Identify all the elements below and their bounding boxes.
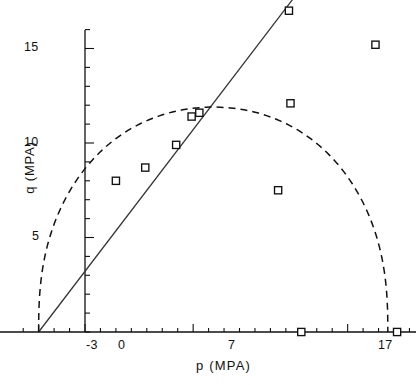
data-point-markers — [112, 7, 400, 336]
y-tick-label-15: 15 — [24, 40, 39, 54]
y-axis-label: q (MPA) — [22, 123, 37, 213]
data-point-marker — [287, 100, 294, 107]
yield-locus-dashed-curve — [39, 107, 388, 332]
data-point-marker — [298, 328, 305, 335]
data-point-marker — [275, 187, 282, 194]
data-point-marker — [196, 109, 203, 116]
x-axis-ticks — [23, 324, 409, 332]
data-point-marker — [173, 141, 180, 148]
data-point-marker — [142, 164, 149, 171]
data-point-marker — [393, 328, 400, 335]
y-tick-label-5: 5 — [32, 229, 39, 243]
x-axis-label: p (MPA) — [196, 358, 251, 373]
data-point-marker — [188, 113, 195, 120]
x-tick-label-17: 17 — [378, 338, 393, 352]
x-tick-label-7: 7 — [228, 338, 235, 352]
data-point-marker — [112, 177, 119, 184]
y-axis-ticks — [85, 30, 94, 332]
data-point-marker — [285, 7, 292, 14]
chart-plot-area — [0, 0, 416, 385]
critical-state-line — [39, 0, 302, 332]
x-tick-label-minus3: -3 — [86, 338, 98, 352]
data-point-marker — [372, 41, 379, 48]
x-tick-label-0: 0 — [118, 338, 125, 352]
